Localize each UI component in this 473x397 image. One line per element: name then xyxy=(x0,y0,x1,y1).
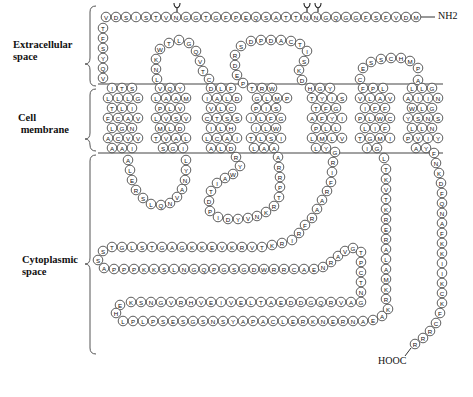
residue-letter: P xyxy=(212,266,216,273)
residue: K xyxy=(187,242,197,252)
residue-letter: G xyxy=(430,105,435,112)
residue: G xyxy=(427,103,437,113)
residue: L xyxy=(378,83,388,93)
residue: G xyxy=(177,242,187,252)
residue-letter: G xyxy=(430,85,435,92)
residue: I xyxy=(437,268,447,278)
membrane-bracket xyxy=(85,89,96,151)
residue: S xyxy=(159,264,169,274)
residue: P xyxy=(251,103,261,113)
residue-letter: I xyxy=(135,14,137,21)
residue-letter: F xyxy=(364,14,368,21)
residue-letter: R xyxy=(272,203,277,210)
residue: Q xyxy=(316,297,326,307)
residue-letter: G xyxy=(171,145,176,152)
residue: D xyxy=(286,297,296,307)
residue-letter: N xyxy=(149,299,153,306)
residue-letter: L xyxy=(121,318,125,325)
residue-letter: L xyxy=(130,244,134,251)
residue-letter: E xyxy=(171,318,175,325)
residue: S xyxy=(137,242,147,252)
residue: T xyxy=(356,247,366,257)
residue: R xyxy=(257,83,267,93)
residue: R xyxy=(269,201,279,211)
residue-letter: R xyxy=(301,318,306,325)
residue-letter: Q xyxy=(319,299,324,306)
residue: L xyxy=(127,242,137,252)
residue: A xyxy=(317,195,327,205)
residue: Y xyxy=(233,214,243,224)
residue: R xyxy=(274,162,284,172)
residue: Q xyxy=(165,83,175,93)
residue: N xyxy=(180,175,190,185)
residue-letter: Y xyxy=(101,55,105,62)
residue: F xyxy=(300,220,310,230)
residue-letter: I xyxy=(236,135,238,142)
residue: S xyxy=(376,54,386,64)
residue: L xyxy=(118,316,128,326)
residue: P xyxy=(205,206,215,216)
residue: L xyxy=(216,103,226,113)
residue: A xyxy=(273,152,283,162)
residue: D xyxy=(175,123,185,133)
residue-letter: R xyxy=(179,299,184,306)
residue: G xyxy=(188,316,198,326)
residue: R xyxy=(230,50,240,60)
residue: L xyxy=(138,316,148,326)
residue-letter: S xyxy=(162,266,166,273)
residue-letter: I xyxy=(265,105,267,112)
residue-letter: G xyxy=(187,40,192,47)
residue: L xyxy=(181,133,191,143)
residue: G xyxy=(365,133,375,143)
residue: V xyxy=(101,12,111,22)
residue-letter: N xyxy=(351,318,355,325)
residue: I xyxy=(131,12,141,22)
residue-letter: G xyxy=(309,299,314,306)
residue-letter: E xyxy=(361,65,365,72)
residue: I xyxy=(327,167,337,177)
residue: A xyxy=(269,143,279,153)
residue-letter: R xyxy=(134,187,139,194)
residue: F xyxy=(266,113,276,123)
residue-letter: L xyxy=(126,95,130,102)
residue: N xyxy=(433,93,443,103)
residue: G xyxy=(331,103,341,113)
residue-letter: T xyxy=(384,196,388,203)
residue: N xyxy=(427,123,437,133)
residue-letter: L xyxy=(154,115,158,122)
residue: E xyxy=(328,316,338,326)
residue-letter: T xyxy=(277,194,281,201)
residue-letter: F xyxy=(432,150,436,157)
residue-letter: H xyxy=(189,299,193,306)
residue: K xyxy=(437,298,447,308)
residue: L xyxy=(146,199,156,209)
residue: S xyxy=(141,12,151,22)
residue-letter: G xyxy=(351,245,356,252)
label-cell-membrane: Cell membrane xyxy=(18,112,69,136)
residue-letter: T xyxy=(250,85,254,92)
residue-letter: R xyxy=(260,85,265,92)
residue: S xyxy=(413,113,423,123)
residue-letter: E xyxy=(209,299,213,306)
residue: S xyxy=(121,12,131,22)
residue: T xyxy=(381,194,391,204)
residue-letter: T xyxy=(358,135,362,142)
residue: F xyxy=(326,177,336,187)
residue-letter: T xyxy=(110,244,114,251)
residue-letter: L xyxy=(141,318,145,325)
residue: A xyxy=(312,204,322,214)
residue-letter: R xyxy=(341,318,346,325)
residue: A xyxy=(161,93,171,103)
residue: S xyxy=(158,143,168,153)
residue: N xyxy=(252,211,262,221)
residue: E xyxy=(309,264,319,274)
residue: I xyxy=(362,143,372,153)
residue-letter: G xyxy=(214,14,219,21)
residue: A xyxy=(271,12,281,22)
residue: S xyxy=(299,56,309,66)
residue: S xyxy=(337,93,347,103)
residue: C xyxy=(268,316,278,326)
residue-letter: G xyxy=(344,14,349,21)
residue-letter: T xyxy=(310,95,314,102)
residue: K xyxy=(381,284,391,294)
